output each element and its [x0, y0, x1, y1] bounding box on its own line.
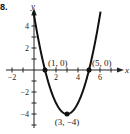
x-axis — [6, 68, 124, 73]
point-marker — [43, 68, 48, 73]
problem-number: 8. — [0, 2, 8, 12]
y-tick-label: 2 — [25, 44, 29, 53]
point-label: (1, 0) — [48, 58, 68, 68]
x-tick-label: 4 — [76, 73, 80, 82]
x-tick-label: −2 — [8, 73, 17, 82]
point-label: (3, −4) — [55, 117, 80, 127]
point-marker — [65, 112, 70, 117]
y-tick-label: 4 — [25, 22, 29, 31]
point-label: (5, 0) — [92, 58, 112, 68]
x-tick-label: 2 — [54, 73, 58, 82]
x-tick-label: 6 — [98, 73, 102, 82]
parabola-chart: 8. x y −224642−2−4 (1, 0)(5, 0)(3, −4) — [0, 0, 130, 134]
y-tick-label: −2 — [20, 88, 29, 97]
y-tick-label: −4 — [20, 110, 29, 119]
y-axis-label: y — [30, 1, 35, 11]
x-axis-label: x — [124, 65, 129, 75]
point-marker — [87, 68, 92, 73]
key-points: (1, 0)(5, 0)(3, −4) — [43, 58, 112, 127]
